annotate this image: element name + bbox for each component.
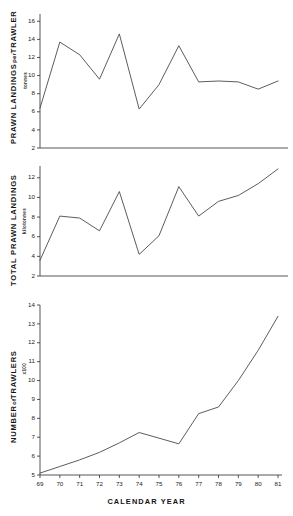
y-tick-label: 11 [29, 357, 36, 364]
data-series-line [40, 316, 278, 473]
data-series-line [40, 34, 278, 109]
panel-top-y-axis-title: PRAWN LANDINGSperTRAWLER [9, 12, 18, 144]
x-tick-label: 75 [156, 480, 163, 487]
y-tick-label: 6 [32, 232, 36, 239]
x-tick-label: 76 [175, 480, 182, 487]
x-tick-label: 74 [136, 480, 143, 487]
y-tick-label: 13 [28, 320, 35, 327]
panel-number-of-trawlers: NUMBERofTRAWLERS x100 567891011121314697… [0, 295, 293, 516]
y-tick-label: 12 [28, 173, 35, 180]
y-tick-label: 10 [28, 71, 35, 78]
panel-mid-plot: 24681012 [0, 160, 293, 295]
y-tick-label: 8 [32, 213, 36, 220]
x-tick-label: 79 [235, 480, 242, 487]
y-tick-label: 8 [32, 89, 36, 96]
y-tick-label: 2 [32, 272, 36, 279]
x-tick-label: 71 [76, 480, 83, 487]
y-tick-label: 14 [28, 35, 35, 42]
panel-mid-y-axis-title: TOTAL PRAWN LANDINGS [9, 168, 18, 286]
y-tick-label: 4 [32, 252, 36, 259]
x-tick-label: 72 [96, 480, 103, 487]
y-tick-label: 6 [32, 107, 36, 114]
y-tick-label: 12 [28, 53, 35, 60]
panel-prawn-landings-per-trawler: PRAWN LANDINGSperTRAWLER tonnes 24681012… [0, 0, 293, 160]
panel-top-y-title-main: PRAWN LANDINGS [9, 63, 18, 144]
panel-bot-plot: 5678910111213146970717273747576777879808… [0, 295, 293, 516]
panel-bot-y-axis-title: NUMBERofTRAWLERS [9, 325, 18, 443]
y-tick-label: 5 [32, 471, 36, 478]
panel-bot-y-title-main: NUMBER [9, 405, 18, 443]
x-tick-label: 81 [275, 480, 282, 487]
y-tick-label: 8 [32, 414, 36, 421]
y-tick-label: 4 [32, 126, 36, 133]
x-tick-label: 70 [56, 480, 63, 487]
panel-top-y-title-mid: per [10, 53, 17, 63]
y-tick-label: 9 [32, 395, 36, 402]
panel-mid-y-units: kilotonnes [22, 208, 27, 234]
y-tick-label: 14 [28, 301, 35, 308]
y-tick-label: 2 [32, 144, 36, 151]
panel-bot-y-units: x100 [22, 363, 27, 374]
panel-top-y-units: tonnes [23, 72, 28, 89]
x-tick-label: 78 [215, 480, 222, 487]
x-tick-label: 73 [116, 480, 123, 487]
y-tick-label: 7 [32, 433, 36, 440]
y-tick-label: 12 [28, 338, 35, 345]
figure-container: PRAWN LANDINGSperTRAWLER tonnes 24681012… [0, 0, 293, 516]
y-tick-label: 6 [32, 452, 36, 459]
y-tick-label: 10 [28, 376, 35, 383]
panel-top-plot: 246810121416 [0, 0, 293, 160]
panel-total-prawn-landings: TOTAL PRAWN LANDINGS kilotonnes 24681012 [0, 160, 293, 295]
x-axis-title: CALENDAR YEAR [0, 497, 293, 506]
panel-top-y-title-end: TRAWLER [9, 10, 18, 53]
x-tick-label: 80 [255, 480, 262, 487]
y-tick-label: 16 [28, 17, 35, 24]
x-tick-label: 77 [195, 480, 202, 487]
y-tick-label: 10 [28, 193, 35, 200]
x-tick-label: 69 [37, 480, 44, 487]
panel-bot-y-title-end: TRAWLERS [9, 350, 18, 399]
panel-bot-y-title-mid: of [10, 399, 17, 405]
data-series-line [40, 169, 278, 260]
